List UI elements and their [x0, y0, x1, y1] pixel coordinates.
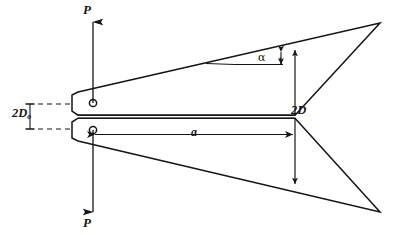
initial-height-label-main: 2D: [12, 106, 27, 120]
crack-tip-height-label: 2D: [291, 104, 306, 117]
specimen-outline-group: [72, 23, 380, 212]
initial-height-label: 2Do: [12, 107, 31, 120]
taper-angle-label: α: [258, 52, 265, 63]
lower-arm-outline: [72, 118, 380, 212]
figure-container: P P 2Do 2D a α: [0, 0, 397, 235]
load-label-bottom: P: [83, 216, 91, 229]
crack-slit: [78, 115, 295, 118]
crack-length-label: a: [191, 126, 197, 138]
initial-height-label-subscript: o: [27, 112, 31, 121]
specimen-diagram-svg: [0, 0, 397, 235]
load-label-top: P: [83, 3, 91, 16]
angle-leader-line: [206, 64, 235, 65]
upper-arm-outline: [72, 23, 380, 115]
height-extension-lines-2D0: [38, 104, 72, 129]
